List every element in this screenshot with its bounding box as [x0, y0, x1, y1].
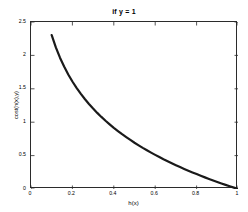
x-tick-marks [31, 22, 238, 189]
y-axis-label-holder: cost(h(x),y) [11, 21, 21, 188]
x-tick-label: 0.8 [186, 190, 206, 197]
x-tick-label: 0 [20, 190, 40, 197]
plot-svg [31, 22, 238, 189]
x-axis-label: h(x) [30, 199, 237, 207]
y-axis-label: cost(h(x),y) [13, 91, 20, 119]
x-tick-label: 0.2 [61, 190, 81, 197]
data-series-line [52, 35, 238, 189]
figure-canvas: if y = 1 00.511.522.5 00.20.40.60.81 h(x… [0, 0, 248, 212]
x-tick-label: 0.4 [103, 190, 123, 197]
x-tick-label: 0.6 [144, 190, 164, 197]
chart-title: if y = 1 [0, 7, 248, 16]
x-tick-label: 1 [227, 190, 247, 197]
y-tick-marks [31, 22, 238, 189]
plot-area [30, 21, 237, 188]
